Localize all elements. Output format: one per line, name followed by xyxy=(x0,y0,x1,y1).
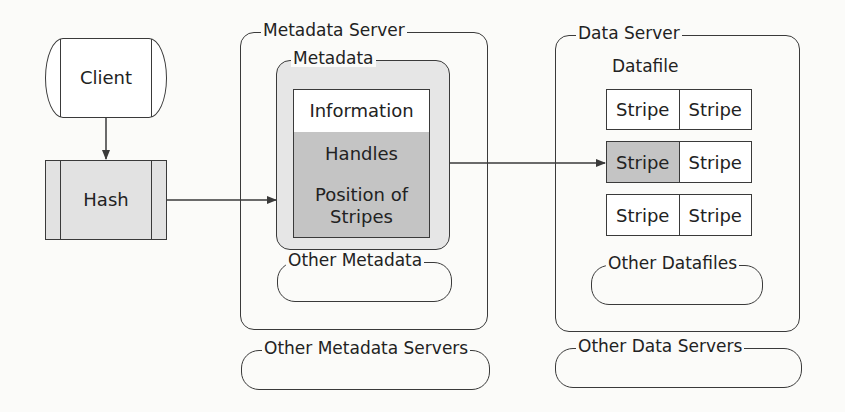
other-metadata-group: Other Metadata xyxy=(277,262,452,302)
other-metadata-title: Other Metadata xyxy=(286,252,424,269)
stripe-cell: Stripe xyxy=(607,90,679,129)
client-left-bar xyxy=(60,39,61,117)
client-label: Client xyxy=(80,69,132,87)
hash-left-bar xyxy=(60,161,61,239)
metadata-server-title: Metadata Server xyxy=(261,22,407,39)
client-node: Client xyxy=(45,38,167,118)
client-right-bar xyxy=(151,39,152,117)
other-metadata-servers-title: Other Metadata Servers xyxy=(262,340,470,357)
hash-right-bar xyxy=(151,161,152,239)
other-data-servers-group: Other Data Servers xyxy=(555,348,802,388)
metadata-row-handles: Handles xyxy=(294,132,429,176)
metadata-fields-stack: Information Handles Position of Stripes xyxy=(293,89,430,238)
metadata-row-information: Information xyxy=(294,90,429,133)
stripe-cell: Stripe xyxy=(607,195,679,235)
stripe-cell-highlighted: Stripe xyxy=(607,142,679,182)
stripe-row-3: Stripe Stripe xyxy=(606,194,752,236)
other-datafiles-title: Other Datafiles xyxy=(606,255,739,272)
hash-label: Hash xyxy=(83,191,128,209)
hash-node: Hash xyxy=(45,160,167,240)
stripe-cell: Stripe xyxy=(679,90,752,129)
data-server-title: Data Server xyxy=(576,25,682,42)
other-metadata-servers-group: Other Metadata Servers xyxy=(241,350,490,390)
datafile-title: Datafile xyxy=(612,58,678,75)
metadata-title: Metadata xyxy=(291,50,376,67)
stripe-row-2: Stripe Stripe xyxy=(606,141,752,183)
other-datafiles-group: Other Datafiles xyxy=(591,265,763,305)
other-data-servers-title: Other Data Servers xyxy=(576,338,744,355)
metadata-row-position-of-stripes: Position of Stripes xyxy=(294,175,429,237)
stripe-cell: Stripe xyxy=(679,142,752,182)
stripe-row-1: Stripe Stripe xyxy=(606,89,752,130)
stripe-cell: Stripe xyxy=(679,195,752,235)
